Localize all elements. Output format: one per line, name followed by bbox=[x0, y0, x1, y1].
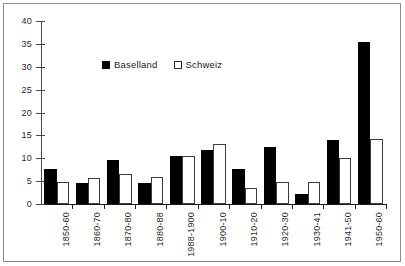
bar-baselland bbox=[44, 169, 56, 204]
bar-baselland bbox=[107, 160, 119, 204]
y-axis-tick-label: 15 bbox=[22, 130, 32, 140]
bar-schweiz bbox=[276, 182, 288, 204]
bar-group bbox=[44, 21, 69, 204]
x-axis-label: 1880-88 bbox=[155, 212, 165, 246]
x-axis-label: 1850-60 bbox=[61, 212, 71, 246]
x-axis-tick bbox=[292, 204, 293, 209]
bar-group bbox=[201, 21, 226, 204]
plot-area: 0510152025303540 1850-601860-701870-8018… bbox=[41, 21, 386, 205]
bar-schweiz bbox=[88, 178, 100, 204]
x-axis-label: 1900-10 bbox=[218, 212, 228, 246]
bar-baselland bbox=[232, 169, 244, 204]
bar-baselland bbox=[170, 156, 182, 204]
bar-baselland bbox=[138, 183, 150, 205]
x-axis-tick bbox=[386, 204, 387, 209]
x-axis-tick bbox=[104, 204, 105, 209]
bar-baselland bbox=[76, 183, 88, 205]
x-axis-tick bbox=[229, 204, 230, 209]
bar-group bbox=[107, 21, 132, 204]
bar-schweiz bbox=[339, 158, 351, 204]
x-axis-tick bbox=[198, 204, 199, 209]
bar-baselland bbox=[295, 194, 307, 204]
x-axis-label: 1950-60 bbox=[374, 212, 384, 246]
y-axis-tick-label: 40 bbox=[22, 16, 32, 26]
bar-schweiz bbox=[151, 177, 163, 204]
bar-schweiz bbox=[182, 156, 194, 204]
bar-schweiz bbox=[370, 139, 382, 204]
bar-schweiz bbox=[119, 174, 131, 204]
x-axis-label: 1988-1900 bbox=[186, 212, 196, 257]
bar-schweiz bbox=[308, 182, 320, 204]
x-axis-tick bbox=[323, 204, 324, 209]
x-axis-tick bbox=[135, 204, 136, 209]
x-axis-tick bbox=[261, 204, 262, 209]
bar-schweiz bbox=[213, 144, 225, 204]
bar-group bbox=[295, 21, 320, 204]
x-axis-label: 1941-50 bbox=[343, 212, 353, 246]
bar-schweiz bbox=[245, 188, 257, 204]
y-axis-tick-label: 0 bbox=[27, 199, 32, 209]
bar-group bbox=[138, 21, 163, 204]
x-axis-label: 1870-80 bbox=[123, 212, 133, 246]
x-axis-label: 1910-20 bbox=[249, 212, 259, 246]
chart-figure: Baselland Schweiz 0510152025303540 1850-… bbox=[3, 3, 401, 262]
bar-baselland bbox=[201, 150, 213, 204]
y-axis-tick-label: 35 bbox=[22, 39, 32, 49]
bar-group bbox=[327, 21, 352, 204]
bar-group bbox=[264, 21, 289, 204]
y-axis-tick bbox=[36, 204, 45, 205]
x-axis-tick bbox=[166, 204, 167, 209]
bar-group bbox=[170, 21, 195, 204]
y-axis-tick-label: 5 bbox=[27, 176, 32, 186]
x-axis-label: 1860-70 bbox=[92, 212, 102, 246]
bar-schweiz bbox=[57, 182, 69, 204]
x-axis-line bbox=[41, 204, 386, 205]
y-axis-tick-label: 20 bbox=[22, 108, 32, 118]
y-axis-tick-label: 30 bbox=[22, 62, 32, 72]
y-axis-tick-label: 25 bbox=[22, 85, 32, 95]
x-axis-label: 1920-30 bbox=[280, 212, 290, 246]
x-axis-label: 1930-41 bbox=[312, 212, 322, 246]
bar-baselland bbox=[327, 140, 339, 204]
bar-group bbox=[76, 21, 101, 204]
bar-baselland bbox=[358, 42, 370, 204]
bar-group bbox=[358, 21, 383, 204]
bar-baselland bbox=[264, 147, 276, 204]
y-axis-tick-label: 10 bbox=[22, 153, 32, 163]
bar-group bbox=[232, 21, 257, 204]
x-axis-tick bbox=[355, 204, 356, 209]
x-axis-tick bbox=[72, 204, 73, 209]
